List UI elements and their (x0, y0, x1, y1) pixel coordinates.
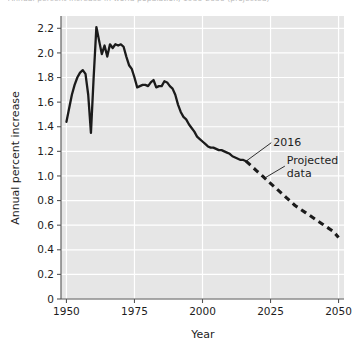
y-tick-label: 0.8 (37, 194, 54, 206)
y-tick-label: 1.8 (37, 71, 54, 83)
y-tick-label: 0.4 (37, 243, 54, 255)
y-tick-label: 1.0 (37, 170, 54, 182)
y-axis-tick-labels: 00.20.40.60.81.01.21.41.61.82.02.2 (37, 22, 54, 305)
annotation-label-projected-line1: Projected (287, 154, 338, 167)
annotation-label-projected-line2: data (287, 167, 312, 180)
y-tick-label: 1.2 (37, 145, 54, 157)
y-axis-ticks (57, 28, 61, 299)
figure-container: Annual percent increase in world populat… (0, 0, 357, 353)
x-axis-tick-labels: 19501975200020252050 (53, 305, 352, 317)
annotation-label-2016: 2016 (273, 136, 301, 149)
y-tick-label: 1.6 (37, 96, 54, 108)
y-tick-label: 1.4 (37, 120, 54, 132)
y-tick-label: 0 (47, 293, 54, 305)
y-tick-label: 2.0 (37, 47, 54, 59)
x-tick-label: 1950 (53, 305, 80, 317)
population-growth-line-chart: 00.20.40.60.81.01.21.41.61.82.02.2 19501… (0, 0, 357, 353)
x-tick-label: 1975 (121, 305, 148, 317)
y-axis-title: Annual percent increase (9, 91, 22, 225)
x-tick-label: 2050 (325, 305, 352, 317)
y-tick-label: 2.2 (37, 22, 54, 34)
x-tick-label: 2025 (257, 305, 284, 317)
y-tick-label: 0.2 (37, 268, 54, 280)
y-tick-label: 0.6 (37, 219, 54, 231)
x-axis-title: Year (190, 328, 215, 341)
x-tick-label: 2000 (189, 305, 216, 317)
